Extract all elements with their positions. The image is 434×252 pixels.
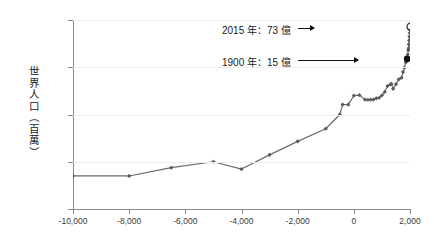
highlight-marker-annot-1900	[404, 56, 410, 63]
annotation-2015-label: 2015 年：73 億	[222, 22, 291, 37]
x-tick-label: -10,000	[59, 216, 88, 226]
x-tick-label: 0	[351, 216, 356, 226]
y-axis-title: 世界人口（百萬）	[24, 66, 40, 158]
x-tick	[73, 209, 74, 214]
x-tick	[354, 209, 355, 214]
x-tick-label: -6,000	[173, 216, 197, 226]
highlight-marker-annot-2015	[407, 23, 410, 30]
data-point	[127, 174, 131, 178]
data-point	[407, 34, 410, 38]
y-tick	[68, 115, 73, 116]
data-point	[73, 174, 75, 178]
x-tick-label: -2,000	[286, 216, 310, 226]
x-tick	[129, 209, 130, 214]
x-tick	[185, 209, 186, 214]
gridline-y	[73, 115, 410, 116]
data-line	[73, 26, 410, 176]
data-point	[341, 103, 345, 107]
x-tick-label: 2,000	[399, 216, 420, 226]
y-tick	[68, 20, 73, 21]
population-chart: 世界人口（百萬） 1101001,00010,000-10,000-8,000-…	[0, 0, 434, 252]
y-tick	[68, 67, 73, 68]
arrow-right-icon	[298, 60, 358, 61]
gridline-y	[73, 20, 410, 21]
data-point	[169, 166, 173, 170]
x-tick	[410, 209, 411, 214]
annotation-1900-label: 1900 年：15 億	[222, 54, 291, 69]
data-point	[239, 167, 243, 171]
x-tick-label: -4,000	[229, 216, 253, 226]
x-tick-label: -8,000	[117, 216, 141, 226]
x-tick	[298, 209, 299, 214]
gridline-y	[73, 162, 410, 163]
x-tick	[242, 209, 243, 214]
plot-area: 1101001,00010,000-10,000-8,000-6,000-4,0…	[73, 20, 410, 209]
annotation-1900: 1900 年：15 億	[222, 54, 358, 69]
data-point	[296, 139, 300, 143]
annotation-2015: 2015 年：73 億	[222, 22, 314, 37]
data-point	[401, 70, 405, 74]
data-point	[267, 153, 271, 157]
y-tick	[68, 162, 73, 163]
arrow-right-icon	[298, 28, 314, 29]
